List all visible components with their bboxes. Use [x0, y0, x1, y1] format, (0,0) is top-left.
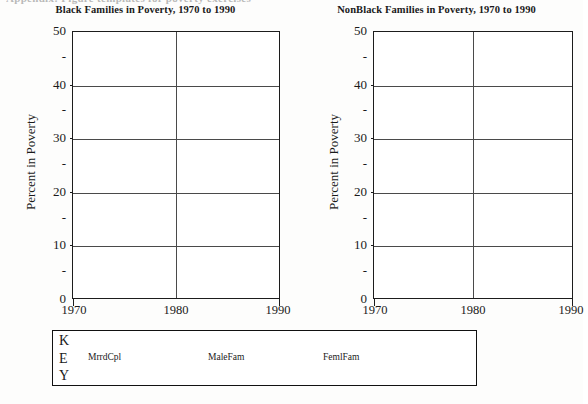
legend-entry-mrrdcpl: MrrdCpl [88, 352, 121, 362]
legend-entry-malefam: MaleFam [208, 352, 244, 362]
y-tick-label: 20 [32, 185, 66, 198]
y-tick-label: 40 [333, 78, 367, 91]
x-tick-label: 1980 [153, 303, 199, 318]
y-minor-tick: - [333, 264, 367, 277]
y-minor-tick: - [32, 103, 66, 116]
key-letter-y: Y [59, 367, 69, 385]
y-tick-label: 10 [32, 238, 66, 251]
y-minor-tick: - [32, 264, 66, 277]
legend-entry-femlfam: FemlFam [323, 352, 359, 362]
y-tick-label: 30 [32, 131, 66, 144]
gridline-vertical [176, 32, 177, 298]
chart-black-families: Black Families in Poverty, 1970 to 1990 … [0, 4, 291, 319]
x-tick-label: 1970 [51, 303, 97, 318]
legend-key-box: K E Y MrrdCpl MaleFam FemlFam [52, 330, 477, 386]
key-word-vertical: K E Y [59, 332, 69, 385]
y-minor-tick: - [333, 103, 367, 116]
y-tick-label: 10 [333, 238, 367, 251]
y-tick-label: 40 [32, 78, 66, 91]
y-minor-tick: - [333, 211, 367, 224]
y-minor-tick: - [333, 50, 367, 63]
chart-nonblack-families: NonBlack Families in Poverty, 1970 to 19… [291, 4, 582, 319]
gridline-vertical [473, 32, 474, 298]
y-tick-label: 20 [333, 185, 367, 198]
y-minor-tick: - [32, 50, 66, 63]
y-tick-label: 30 [333, 131, 367, 144]
y-minor-tick: - [32, 211, 66, 224]
y-minor-tick: - [333, 157, 367, 170]
chart-title: NonBlack Families in Poverty, 1970 to 19… [291, 4, 582, 15]
x-tick-label: 1990 [548, 303, 588, 318]
plot-area [72, 31, 280, 299]
key-letter-e: E [59, 350, 69, 368]
plot-area [373, 31, 573, 299]
x-tick-label: 1980 [450, 303, 496, 318]
y-tick-label: 50 [333, 24, 367, 37]
x-tick-label: 1970 [352, 303, 398, 318]
y-tick-label: 50 [32, 24, 66, 37]
key-letter-k: K [59, 332, 69, 350]
y-minor-tick: - [32, 157, 66, 170]
chart-title: Black Families in Poverty, 1970 to 1990 [0, 4, 291, 15]
